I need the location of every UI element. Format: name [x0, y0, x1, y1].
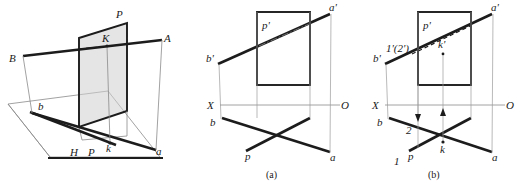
label-axis-O-b: O — [506, 99, 514, 111]
point-k-prime-marker — [442, 53, 445, 56]
label-point-2-b: 2 — [406, 124, 412, 136]
arrow-marker-k — [440, 56, 446, 142]
label-overlap-points-b: 1'(2') — [386, 42, 409, 55]
diagram-b: p' a' b' k' 1'(2') X O b a p k 1 2 (b) — [0, 0, 517, 183]
arrow-marker-1-2 — [415, 85, 421, 148]
label-h-proj-b-b: b — [377, 116, 383, 128]
label-h-trace-p-b: p — [407, 150, 414, 162]
label-h-proj-k-b: k — [440, 143, 446, 155]
label-k-prime-b: k' — [438, 38, 446, 50]
label-plane-front-b: p' — [422, 19, 432, 31]
figure-root: P K A B b a H P k p' a' b' — [0, 0, 517, 183]
caption-b: (b) — [428, 169, 440, 181]
label-b-prime-b: b' — [373, 52, 382, 64]
label-axis-X-b: X — [371, 99, 380, 111]
label-point-1-b: 1 — [394, 155, 400, 167]
label-h-proj-a-b: a — [492, 151, 498, 163]
label-a-prime-b: a' — [491, 1, 500, 13]
projectors-b — [386, 12, 493, 153]
